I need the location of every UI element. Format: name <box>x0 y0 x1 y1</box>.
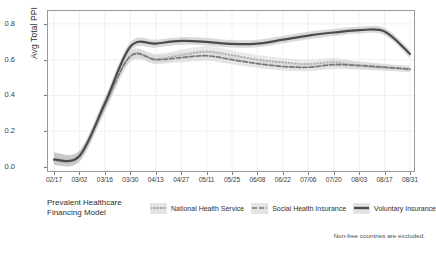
legend: Prevalent Healthcare Financing Model Nat… <box>47 198 436 218</box>
x-tick-mark <box>308 172 309 175</box>
legend-title-line-1: Prevalent Healthcare <box>47 198 143 208</box>
dashed-line-key <box>251 203 268 214</box>
x-tick-mark <box>232 172 233 175</box>
y-tick-label: 0.2 <box>0 126 15 135</box>
x-tick-mark <box>257 172 258 175</box>
x-tick-label: 08/31 <box>393 176 427 183</box>
x-tick-mark <box>54 172 55 175</box>
y-tick-label: 0.0 <box>0 162 15 171</box>
y-tick-label: 0.8 <box>0 19 15 28</box>
plot-area <box>47 10 415 172</box>
footnote: Non-free countries are excluded. <box>334 232 425 239</box>
legend-entry-social-health-insurance[interactable]: Social Health Insurance <box>251 203 346 214</box>
y-axis-title: Avg Total PPI <box>29 0 39 93</box>
x-tick-mark <box>283 172 284 175</box>
legend-title: Prevalent Healthcare Financing Model <box>47 198 143 218</box>
x-tick-mark <box>156 172 157 175</box>
x-tick-mark <box>334 172 335 175</box>
x-tick-mark <box>130 172 131 175</box>
y-tick-label: 0.4 <box>0 90 15 99</box>
x-tick-mark <box>79 172 80 175</box>
dotted-line-key <box>150 203 167 214</box>
x-tick-mark <box>181 172 182 175</box>
legend-label-national-health-service: National Health Service <box>171 205 244 212</box>
legend-entry-national-health-service[interactable]: National Health Service <box>150 203 244 214</box>
solid-line-key <box>353 203 370 214</box>
legend-label-social-health-insurance: Social Health Insurance <box>272 205 346 212</box>
legend-entry-voluntary-insurance[interactable]: Voluntary Insurance <box>353 203 436 214</box>
legend-title-line-2: Financing Model <box>47 208 143 218</box>
x-tick-mark <box>359 172 360 175</box>
x-tick-mark <box>207 172 208 175</box>
x-tick-mark <box>105 172 106 175</box>
y-tick-label: 0.6 <box>0 55 15 64</box>
x-tick-mark <box>410 172 411 175</box>
x-tick-mark <box>385 172 386 175</box>
legend-label-voluntary-insurance: Voluntary Insurance <box>374 205 436 212</box>
plot-canvas <box>48 11 414 171</box>
